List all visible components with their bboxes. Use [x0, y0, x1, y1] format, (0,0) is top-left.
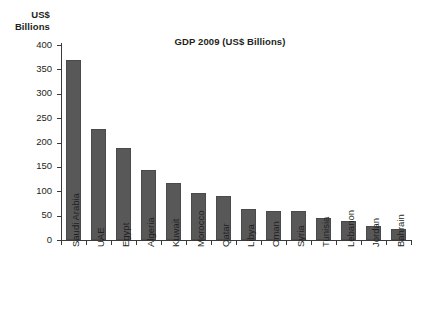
y-axis-tick-label: 50: [41, 209, 52, 220]
x-axis-tick-mark: [411, 241, 412, 245]
bar-slot: [266, 45, 282, 240]
x-axis-label-text: Tunisia: [320, 217, 331, 247]
bar-slot: [366, 45, 382, 240]
y-axis-unit-label: US$ Billions: [0, 9, 50, 32]
bar-slot: [216, 45, 232, 240]
x-axis-tick-mark: [286, 241, 287, 245]
bar: [91, 129, 107, 240]
x-axis-label-text: Morocco: [195, 211, 206, 247]
bar-slot: [316, 45, 332, 240]
x-axis-label-text: Algeria: [145, 217, 156, 247]
x-axis-label-text: Libya: [245, 224, 256, 247]
y-axis-tick-label: 300: [36, 87, 52, 98]
x-axis-tick-mark: [111, 241, 112, 245]
x-axis-tick-mark: [61, 241, 62, 245]
x-axis-tick-mark: [186, 241, 187, 245]
x-axis-tick-mark: [136, 241, 137, 245]
x-axis-label-text: Lebanon: [345, 210, 356, 247]
x-axis-tick-mark: [211, 241, 212, 245]
x-axis-tick-mark: [336, 241, 337, 245]
bar-slot: [141, 45, 157, 240]
bar-slot: [291, 45, 307, 240]
bar-slot: [166, 45, 182, 240]
x-axis-label-text: Qatar: [220, 223, 231, 247]
bar-group: [61, 45, 411, 240]
bar-slot: [391, 45, 407, 240]
x-axis-tick-mark: [236, 241, 237, 245]
x-axis-tick-mark: [311, 241, 312, 245]
y-axis-tick-label: 150: [36, 160, 52, 171]
y-axis-tick-label: 250: [36, 112, 52, 123]
y-axis-unit-line-1: US$: [0, 9, 50, 21]
x-axis-label-text: Jordan: [370, 218, 381, 247]
x-axis-label-text: Saudi Arabia: [70, 193, 81, 247]
x-axis-tick-mark: [161, 241, 162, 245]
x-axis-tick-mark: [361, 241, 362, 245]
x-axis-label-text: Syria: [295, 225, 306, 247]
x-axis-label-text: Oman: [270, 221, 281, 247]
y-axis-tick-label: 0: [47, 234, 52, 245]
y-axis-tick-label: 100: [36, 185, 52, 196]
bar-slot: [241, 45, 257, 240]
y-axis-tick-label: 400: [36, 39, 52, 50]
x-axis-label-text: Kuwait: [170, 218, 181, 247]
y-axis-tick-label: 200: [36, 136, 52, 147]
x-axis-label-text: Bahrain: [395, 214, 406, 247]
x-axis-label-text: UAE: [95, 227, 106, 247]
gdp-bar-chart: US$ Billions GDP 2009 (US$ Billions) 050…: [0, 0, 442, 310]
y-axis-unit-line-2: Billions: [0, 21, 50, 33]
y-axis-tick-label: 350: [36, 63, 52, 74]
x-axis-tick-mark: [261, 241, 262, 245]
bar-slot: [116, 45, 132, 240]
x-axis-tick-mark: [386, 241, 387, 245]
bar-slot: [91, 45, 107, 240]
x-axis-tick-mark: [86, 241, 87, 245]
x-axis-label-text: Egypt: [120, 223, 131, 247]
